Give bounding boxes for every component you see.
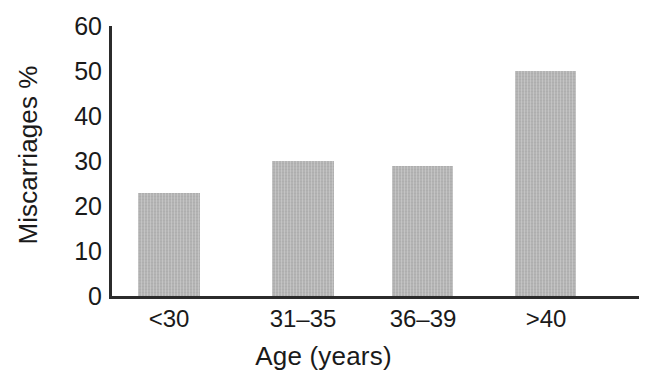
plot-area [112, 26, 639, 296]
x-axis-line [109, 296, 639, 299]
x-tick-label: <30 [149, 305, 190, 334]
bar [138, 193, 200, 297]
x-tick-label: >40 [526, 305, 567, 334]
y-tick-label: 30 [50, 149, 102, 174]
bar [392, 166, 453, 297]
y-tick-label: 50 [50, 59, 102, 84]
x-tick-label: 31–35 [270, 305, 337, 334]
y-axis-tick-labels: 60 50 40 30 20 10 0 [50, 0, 102, 380]
bar-chart-figure: Miscarriages % 60 50 40 30 20 10 0 <30 3… [0, 0, 647, 380]
x-axis-title: Age (years) [0, 341, 647, 372]
y-tick-label: 0 [50, 284, 102, 309]
bar [272, 161, 334, 296]
y-axis-title: Miscarriages % [8, 5, 48, 305]
y-tick-label: 40 [50, 104, 102, 129]
x-tick-label: 36–39 [390, 305, 457, 334]
y-tick-label: 10 [50, 239, 102, 264]
y-tick-label: 20 [50, 194, 102, 219]
bar [515, 71, 576, 296]
y-tick-label: 60 [50, 14, 102, 39]
